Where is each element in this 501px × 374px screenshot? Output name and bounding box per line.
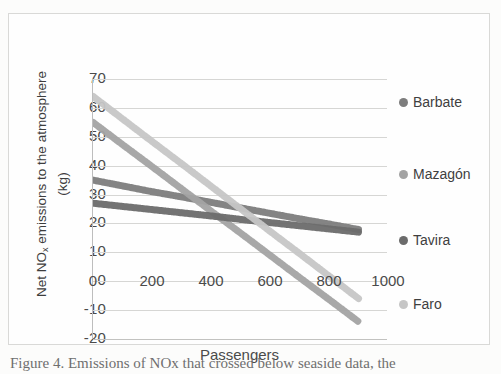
legend-label: Tavira [413,232,450,248]
y-axis-title-subscript: x [40,247,50,252]
y-axis-title-part2: emissions to the [34,146,49,247]
x-tick-label-200: 200 [139,272,164,289]
legend-marker-icon [399,300,408,309]
legend-entry-barbate[interactable]: Barbate [399,94,462,110]
x-tick-label-800: 800 [316,272,341,289]
series-line-faro [93,96,359,298]
figure-caption: Figure 4. Emissions of NOx that crossed … [10,354,496,374]
legend-label: Faro [413,296,442,312]
gridline-y--20 [93,339,387,340]
legend-entry-tavira[interactable]: Tavira [399,232,450,248]
y-axis-title-part1: Net NO [34,252,49,297]
legend-marker-icon [399,236,408,245]
chart-legend: BarbateMazagónTaviraFaro [399,74,501,324]
series-layer [93,79,387,339]
legend-marker-icon [399,98,408,107]
scanned-page: Net NOx emissions to the atmosphere (kg)… [0,0,501,374]
x-tick-label-400: 400 [198,272,223,289]
legend-entry-faro[interactable]: Faro [399,296,442,312]
figure-caption-text: Figure 4. Emissions of NOx that crossed … [10,355,396,371]
line-series-svg [93,79,388,339]
legend-entry-mazagn[interactable]: Mazagón [399,166,471,182]
chart-frame: Net NOx emissions to the atmosphere (kg)… [8,13,490,345]
legend-label: Barbate [413,94,462,110]
x-tick-label-600: 600 [257,272,282,289]
x-tick-label-0: 0 [89,272,97,289]
legend-marker-icon [399,170,408,179]
legend-label: Mazagón [413,166,471,182]
plot-area: 02004006008001000 [92,79,387,339]
